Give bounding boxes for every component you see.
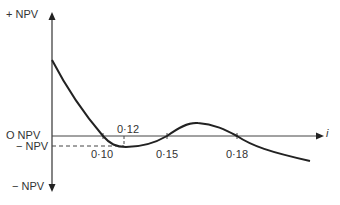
minus-npv-dashed-label: − NPV [16,141,48,152]
x-axis-label: i [326,128,328,139]
tick-label-018: 0·18 [226,149,248,160]
plus-npv-label: + NPV [6,9,38,20]
tick-label-012: 0·12 [117,124,139,135]
npv-chart [0,0,340,205]
x-axis-arrow-icon [316,133,324,140]
tick-label-015: 0·15 [156,149,178,160]
minus-npv-label: − NPV [12,181,44,192]
y-axis-up-arrow-icon [49,12,56,20]
tick-label-010: 0·10 [91,149,113,160]
y-axis-down-arrow-icon [49,184,56,192]
